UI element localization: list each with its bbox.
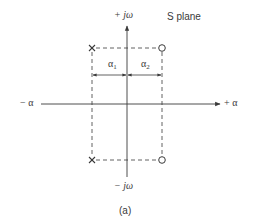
plane-label: S plane (167, 11, 201, 23)
zero-upper-icon (159, 45, 166, 52)
neg-real-label: − α (20, 97, 33, 109)
caption: (a) (119, 205, 131, 217)
pole-upper-icon (89, 45, 95, 51)
pole-lower-icon (89, 157, 95, 163)
alpha1-label: α1 (108, 58, 117, 73)
zero-lower-icon (159, 157, 166, 164)
alpha2-label: α2 (141, 58, 150, 73)
neg-imag-label: − jω (114, 180, 133, 192)
pos-imag-label: + jω (114, 9, 133, 21)
pos-real-label: + α (224, 97, 237, 109)
